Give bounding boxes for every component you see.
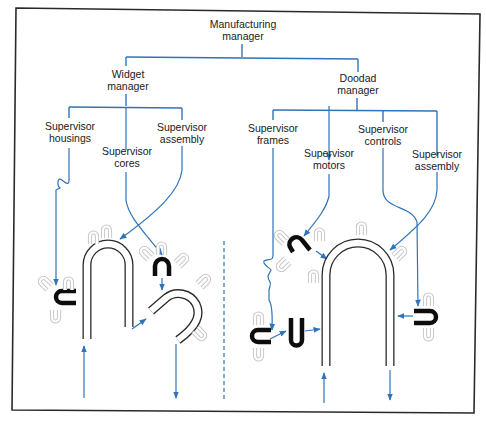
svg-text:Supervisor: Supervisor: [157, 121, 208, 133]
svg-text:cores: cores: [114, 157, 140, 169]
svg-text:controls: controls: [365, 135, 402, 147]
label-supervisor-housings: Supervisor housings: [45, 120, 96, 144]
svg-text:housings: housings: [49, 132, 91, 144]
label-supervisor-assembly-widget: Supervisor assembly: [157, 121, 208, 145]
svg-text:Supervisor: Supervisor: [304, 147, 355, 159]
label-widget-manager: Widget manager: [107, 68, 149, 92]
svg-text:manager: manager: [222, 30, 264, 42]
label-doodad-manager: Doodad manager: [337, 72, 379, 96]
svg-text:Supervisor: Supervisor: [102, 145, 153, 157]
org-process-diagram: Manufacturing manager Widget manager Doo…: [0, 0, 486, 432]
svg-text:Supervisor: Supervisor: [45, 120, 96, 132]
svg-text:Doodad: Doodad: [340, 72, 377, 84]
svg-text:Widget: Widget: [112, 68, 145, 80]
svg-text:Supervisor: Supervisor: [412, 148, 463, 160]
label-supervisor-assembly-doodad: Supervisor assembly: [412, 148, 463, 172]
svg-text:Manufacturing: Manufacturing: [210, 18, 277, 30]
diagram-frame: [12, 8, 480, 413]
svg-text:manager: manager: [337, 84, 379, 96]
svg-text:manager: manager: [107, 80, 149, 92]
label-supervisor-controls: Supervisor controls: [358, 123, 409, 147]
svg-text:frames: frames: [257, 134, 289, 146]
svg-text:Supervisor: Supervisor: [358, 123, 409, 135]
svg-text:assembly: assembly: [160, 133, 205, 145]
svg-text:assembly: assembly: [415, 160, 460, 172]
svg-text:Supervisor: Supervisor: [248, 122, 299, 134]
svg-text:motors: motors: [313, 159, 345, 171]
